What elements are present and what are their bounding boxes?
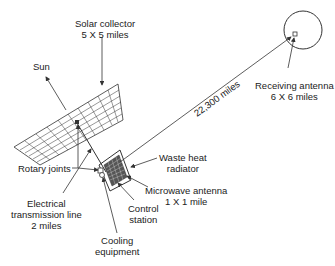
rotary-joint-upper [75,120,79,124]
rotary-joints-pointer-b [78,168,98,170]
receiving-antenna-marker [293,32,297,36]
earth-circle [284,11,322,49]
microwave-antenna-assembly [98,150,131,191]
solar-collector-label: Solar collector 5 X 5 miles [75,18,135,40]
cooling-equipment-label: Cooling equipment [95,235,139,257]
sun-direction-arrow [46,77,66,110]
sun-label: Sun [33,61,50,72]
receiving-antenna-label: Receiving antenna 6 X 6 miles [255,80,334,102]
distance-label: 22,300 miles [192,78,242,119]
cooling-equipment-pointer [103,178,117,233]
waste-heat-radiator-label: Waste heat radiator [159,152,207,174]
solar-collector-panel [14,84,123,165]
control-station-pointer [118,183,134,200]
waste-heat-pointer [131,158,157,167]
rotary-joints-pointer-a [72,125,78,168]
control-station-label: Control station [128,203,159,225]
electrical-transmission-line-label: Electrical transmission line 2 miles [11,198,82,231]
solar-power-satellite-diagram: 22,300 miles Solar collector 5 X 5 miles… [0,0,335,266]
rotary-joints-label: Rotary joints [18,163,71,174]
